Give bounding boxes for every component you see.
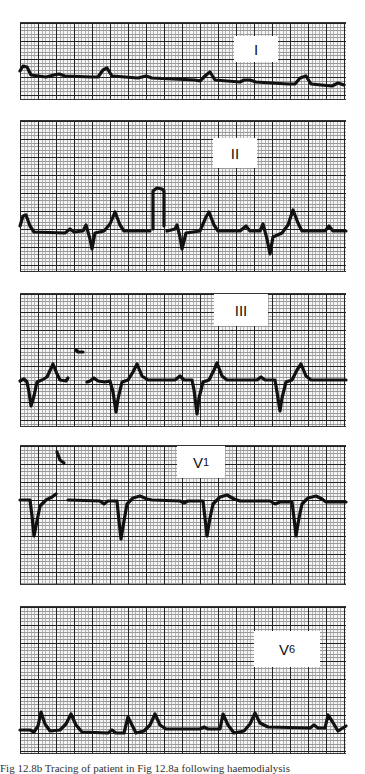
ecg-trace-lead-ii (20, 121, 346, 271)
ecg-strip-lead-ii: II (20, 120, 346, 272)
figure-caption: Fig 12.8b Tracing of patient in Fig 12.8… (0, 762, 290, 774)
ecg-strip-lead-v1: V1 (20, 445, 346, 585)
ecg-strip-lead-v6: V6 (20, 606, 346, 754)
ecg-trace-lead-v6 (20, 607, 346, 753)
ecg-trace-lead-i (20, 23, 346, 99)
ecg-trace-lead-iii (20, 294, 346, 426)
ecg-trace-lead-v1 (20, 446, 346, 584)
ecg-strip-lead-iii: III (20, 293, 346, 427)
ecg-strip-lead-i: I (20, 22, 346, 100)
